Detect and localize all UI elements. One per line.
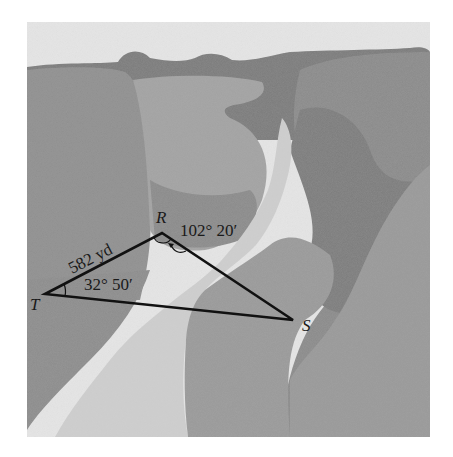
vertex-label-R: R (155, 208, 167, 227)
vertex-label-T: T (30, 295, 41, 314)
angle-T-measure: 32° 50′ (84, 275, 133, 294)
figure-svg: R T S 582 yd 32° 50′ 102° 20′ (0, 0, 453, 457)
vertex-label-S: S (302, 316, 311, 335)
angle-R-measure: 102° 20′ (180, 221, 237, 240)
canyon-triangle-figure: R T S 582 yd 32° 50′ 102° 20′ (0, 0, 453, 457)
